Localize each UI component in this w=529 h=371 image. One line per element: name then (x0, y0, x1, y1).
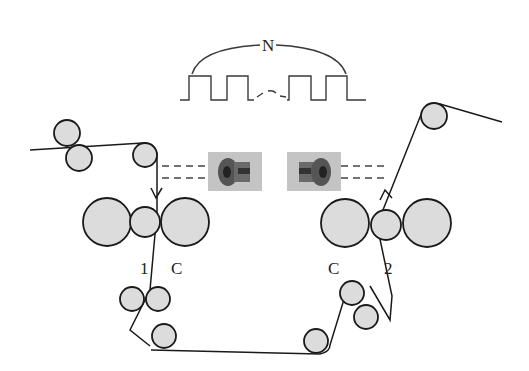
right-sensor (287, 152, 386, 191)
nip-roller-group-2 (321, 199, 451, 247)
pulse-count-label: N (262, 36, 274, 55)
roller-label-c-left: C (171, 259, 182, 278)
top-right-guide-roller (421, 103, 447, 129)
web-transport-diagram: N 1 C (0, 0, 529, 371)
bottom-right-guide-rollers (304, 281, 378, 353)
roller-label-c-right: C (328, 259, 339, 278)
left-sensor (162, 152, 262, 191)
roller-label-1: 1 (140, 259, 149, 278)
roller-label-2: 2 (384, 259, 393, 278)
bottom-left-guide-rollers (120, 287, 176, 348)
nip-roller-group-1 (83, 198, 209, 246)
